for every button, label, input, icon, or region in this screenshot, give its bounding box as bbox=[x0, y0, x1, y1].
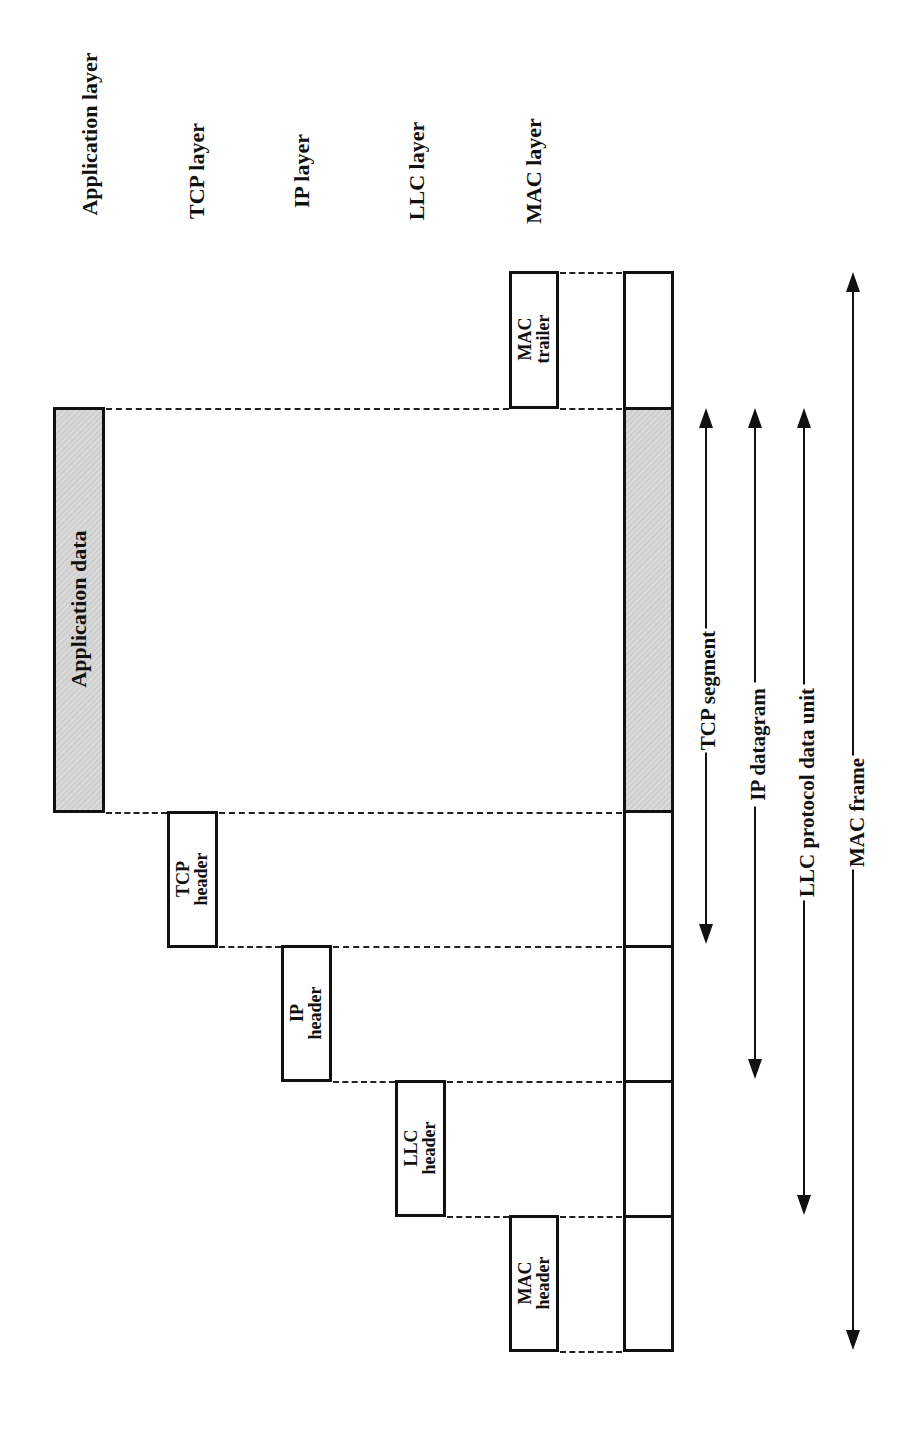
dashed-connector bbox=[219, 812, 622, 814]
mac-trailer-text-2: trailer bbox=[533, 315, 553, 364]
application-data-label: Application data bbox=[68, 509, 90, 709]
dashed-connector bbox=[560, 272, 622, 274]
arrow-up-icon bbox=[797, 408, 811, 428]
layer-label-mac: MAC layer bbox=[523, 116, 545, 226]
dashed-connector bbox=[447, 1081, 622, 1083]
layer-label-application: Application layer bbox=[79, 34, 101, 234]
arrow-down-icon bbox=[797, 1195, 811, 1215]
tcp-header-text-1: TCP bbox=[173, 861, 193, 897]
mac-header-label: MAC header bbox=[516, 1243, 552, 1323]
layer-label-ip: IP layer bbox=[291, 131, 313, 211]
tcp-header-label: TCP header bbox=[174, 839, 210, 919]
arrow-up-icon bbox=[846, 272, 860, 292]
dashed-connector bbox=[106, 408, 509, 410]
llc-header-label: LLC header bbox=[402, 1108, 438, 1188]
mac-trailer-text-1: MAC bbox=[515, 318, 535, 361]
mac-header-text-1: MAC bbox=[515, 1262, 535, 1305]
frame-segment-application-data bbox=[623, 407, 674, 813]
mac-header-text-2: header bbox=[533, 1257, 553, 1310]
ip-header-text-1: IP bbox=[287, 1004, 307, 1022]
frame-segment-mac-trailer bbox=[623, 271, 674, 410]
arrow-down-icon bbox=[846, 1330, 860, 1350]
dashed-connector bbox=[560, 1351, 622, 1353]
llc-header-text-2: header bbox=[419, 1122, 439, 1175]
dashed-connector bbox=[560, 1216, 622, 1218]
layer-label-llc: LLC layer bbox=[406, 121, 428, 221]
ip-header-text-2: header bbox=[305, 987, 325, 1040]
layer-label-tcp: TCP layer bbox=[186, 116, 208, 226]
llc-header-text-1: LLC bbox=[401, 1130, 421, 1167]
tcp-segment-label: TCP segment bbox=[696, 629, 721, 753]
dashed-connector bbox=[219, 946, 281, 948]
frame-segment-mac-header bbox=[623, 1215, 674, 1352]
arrow-down-icon bbox=[699, 924, 713, 944]
dashed-connector bbox=[560, 408, 622, 410]
mac-trailer-label: MAC trailer bbox=[516, 299, 552, 379]
ip-datagram-label: IP datagram bbox=[746, 683, 771, 807]
ip-header-label: IP header bbox=[288, 973, 324, 1053]
arrow-up-icon bbox=[699, 408, 713, 428]
llc-pdu-label: LLC protocol data unit bbox=[795, 685, 820, 901]
tcp-header-text-2: header bbox=[191, 853, 211, 906]
arrow-up-icon bbox=[748, 408, 762, 428]
frame-segment-tcp-header bbox=[623, 810, 674, 948]
arrow-down-icon bbox=[748, 1059, 762, 1079]
frame-segment-ip-header bbox=[623, 945, 674, 1083]
frame-segment-llc-header bbox=[623, 1080, 674, 1218]
mac-frame-label: MAC frame bbox=[845, 756, 870, 870]
dashed-connector bbox=[447, 1216, 509, 1218]
dashed-connector bbox=[106, 812, 167, 814]
dashed-connector bbox=[333, 1081, 395, 1083]
dashed-connector bbox=[333, 946, 622, 948]
